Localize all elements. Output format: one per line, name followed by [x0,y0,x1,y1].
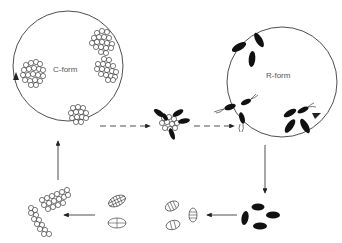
rod-cell [248,51,256,68]
rod-cell [282,107,297,119]
rod-cell [252,31,266,48]
segmented-spores-stage [107,193,128,228]
coccus-cluster [94,56,118,82]
cycle-arrowhead-icon [312,113,321,119]
c-form-label: C-form [53,65,78,74]
c-form-stage: C-form [13,11,123,125]
flagellated-rod [238,112,246,132]
chains-stage [28,187,70,236]
flagellated-rod [240,94,258,107]
rod-cell [230,40,247,54]
rod-cell [283,118,298,135]
life-cycle-diagram: C-form [0,0,342,243]
flagellated-rod [214,102,237,113]
coccus-cluster [68,104,88,124]
r-form-label: R-form [266,71,291,80]
segmented-spores-stage [164,199,197,231]
coccus-cluster [89,28,114,55]
r-form-stage: R-form [214,27,337,137]
transition-stage [153,107,191,140]
coccus-cluster [20,59,45,87]
dark-spores-stage [240,204,280,230]
